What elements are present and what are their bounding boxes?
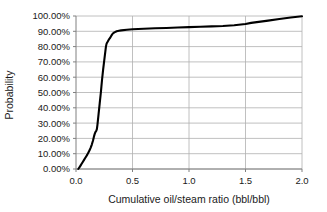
y-tick-label: 10.00% xyxy=(38,148,71,159)
y-tick-label: 100.00% xyxy=(32,10,70,21)
y-tick-label: 60.00% xyxy=(38,72,71,83)
y-tick-label: 30.00% xyxy=(38,118,71,129)
chart-container: 0.00%10.00%20.00%30.00%40.00%50.00%60.00… xyxy=(0,0,327,212)
x-tick-label: 0.5 xyxy=(126,175,139,186)
x-tick-label: 1.5 xyxy=(239,175,252,186)
y-tick-label: 40.00% xyxy=(38,102,71,113)
x-axis-title: Cumulative oil/steam ratio (bbl/bbl) xyxy=(108,193,270,205)
x-tick-label: 2.0 xyxy=(295,175,308,186)
y-tick-label: 20.00% xyxy=(38,133,71,144)
y-tick-label: 80.00% xyxy=(38,41,71,52)
y-tick-label: 0.00% xyxy=(43,163,70,174)
cumulative-probability-chart: 0.00%10.00%20.00%30.00%40.00%50.00%60.00… xyxy=(0,0,327,212)
y-tick-label: 70.00% xyxy=(38,56,71,67)
x-tick-label: 1.0 xyxy=(182,175,195,186)
y-axis-title: Probability xyxy=(3,70,15,120)
y-tick-label: 50.00% xyxy=(38,87,71,98)
y-tick-label: 90.00% xyxy=(38,26,71,37)
y-axis-tick-labels: 0.00%10.00%20.00%30.00%40.00%50.00%60.00… xyxy=(32,10,70,174)
x-tick-label: 0.0 xyxy=(69,175,82,186)
